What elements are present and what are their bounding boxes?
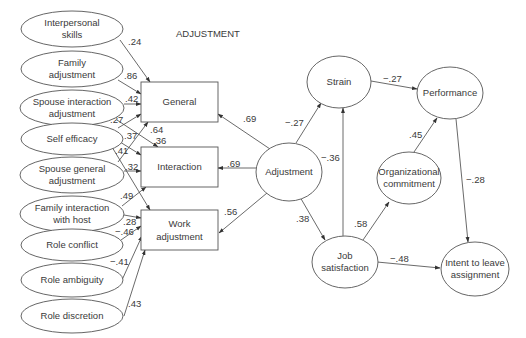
coef-spouseinter-general: .42: [125, 93, 138, 104]
coef-adjustment-jobsat: .38: [296, 213, 309, 224]
section-label-adjustment: ADJUSTMENT: [176, 28, 240, 39]
node-job-satisfaction: Job satisfaction: [312, 236, 378, 288]
svg-text:with host: with host: [52, 214, 91, 225]
node-role-ambiguity: Role ambiguity: [21, 263, 123, 297]
node-spouse-interaction-adjustment: Spouse interaction adjustment: [20, 90, 124, 126]
node-role-conflict: Role conflict: [21, 229, 123, 261]
coef-adjustment-interaction: .69: [227, 158, 240, 169]
svg-text:Spouse general: Spouse general: [39, 163, 106, 174]
svg-text:skills: skills: [62, 29, 83, 40]
svg-text:Role conflict: Role conflict: [46, 239, 98, 250]
svg-text:assignment: assignment: [451, 269, 500, 280]
svg-text:Family interaction: Family interaction: [35, 202, 109, 213]
svg-text:Strain: Strain: [327, 76, 352, 87]
coef-roledisc-work: .43: [128, 298, 141, 309]
svg-text:adjustment: adjustment: [49, 69, 96, 80]
coef-adjustment-general: .69: [243, 113, 256, 124]
svg-text:Role ambiguity: Role ambiguity: [41, 274, 104, 285]
svg-text:adjustment: adjustment: [49, 175, 96, 186]
node-role-discretion: Role discretion: [21, 299, 123, 333]
coef-performance-intent: −.28: [466, 174, 485, 185]
coef-jobsat-intent: −.48: [390, 253, 409, 264]
node-performance: Performance: [417, 67, 483, 119]
coef-jobsat-strain: −.36: [321, 152, 340, 163]
svg-text:adjustment: adjustment: [156, 231, 203, 242]
coef-interpersonal-general: .24: [128, 36, 141, 47]
svg-text:commitment: commitment: [383, 178, 435, 189]
svg-text:satisfaction: satisfaction: [321, 262, 369, 273]
svg-text:Work: Work: [169, 218, 191, 229]
edge-family-general: [118, 80, 141, 94]
coef-adjustment-work: .56: [224, 206, 237, 217]
svg-text:Role discretion: Role discretion: [41, 310, 104, 321]
node-self-efficacy: Self efficacy: [21, 123, 123, 155]
node-adjustment: Adjustment: [256, 143, 322, 201]
coef-selfeff-general: .37: [124, 130, 137, 141]
svg-text:Family: Family: [58, 57, 86, 68]
node-interpersonal-skills: Interpersonal skills: [21, 11, 123, 47]
svg-text:Adjustment: Adjustment: [265, 166, 313, 177]
svg-text:General: General: [163, 96, 197, 107]
svg-text:Interaction: Interaction: [157, 161, 201, 172]
adjustment-boxes: General Interaction Work adjustment: [141, 82, 218, 250]
coef-spousegen-general: .36: [153, 135, 166, 146]
node-family-adjustment: Family adjustment: [21, 51, 123, 87]
node-strain: Strain: [307, 56, 371, 108]
node-family-interaction-with-host: Family interaction with host: [20, 196, 124, 232]
svg-text:Intent to leave: Intent to leave: [445, 257, 505, 268]
sem-path-diagram: ADJUSTMENT: [0, 0, 526, 338]
svg-text:Spouse interaction: Spouse interaction: [33, 96, 112, 107]
coef-famhost-interaction: .49: [120, 190, 133, 201]
coef-strain-performance: −.27: [383, 73, 402, 84]
coef-adjustment-strain: −.27: [285, 117, 304, 128]
coef-family-general: .86: [124, 70, 137, 81]
svg-text:Organizational: Organizational: [378, 166, 439, 177]
svg-text:adjustment: adjustment: [49, 108, 96, 119]
coef-roleconf-work: −.46: [115, 226, 134, 237]
coef-orgcommit-performance: .45: [409, 129, 422, 140]
svg-text:Job: Job: [337, 250, 352, 261]
svg-text:Self efficacy: Self efficacy: [46, 133, 97, 144]
coef-selfeff-work: .64: [150, 124, 163, 135]
coef-spousegen-interaction: .32: [125, 161, 138, 172]
box-interaction: Interaction: [141, 147, 218, 187]
antecedent-ellipses: Interpersonal skills Family adjustment S…: [20, 11, 124, 333]
node-intent-to-leave-assignment: Intent to leave assignment: [441, 242, 509, 296]
coef-roleamb-work: −.41: [110, 256, 129, 267]
box-general: General: [141, 82, 218, 122]
node-organizational-commitment: Organizational commitment: [377, 152, 441, 204]
svg-text:Performance: Performance: [423, 87, 477, 98]
node-spouse-general-adjustment: Spouse general adjustment: [20, 157, 124, 193]
coef-jobsat-orgcommit: .58: [354, 218, 367, 229]
svg-text:Interpersonal: Interpersonal: [44, 17, 99, 28]
box-work-adjustment: Work adjustment: [141, 210, 218, 250]
